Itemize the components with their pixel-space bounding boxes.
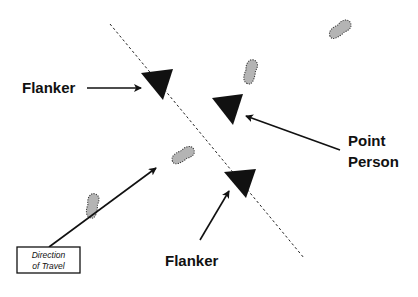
direction-arrow xyxy=(49,168,156,247)
footprint-icon xyxy=(326,18,353,40)
point-person-arrow xyxy=(246,116,340,150)
flanker-top-label: Flanker xyxy=(22,79,76,96)
of-travel-label: of Travel xyxy=(32,261,66,271)
point-label: Point xyxy=(348,132,386,149)
person-label: Person xyxy=(348,153,399,170)
point-person-marker-icon xyxy=(212,94,243,125)
flanker-top-marker-icon xyxy=(141,69,173,100)
flanker-bottom-label: Flanker xyxy=(165,252,219,269)
dashed-path-line xyxy=(110,24,304,258)
flanker-bottom-arrow xyxy=(200,191,229,240)
footprint-icon xyxy=(169,145,196,165)
diagram-canvas: Flanker Point Person Flanker Direction o… xyxy=(0,0,418,297)
footprint-icon xyxy=(239,58,261,85)
formation-diagram: Flanker Point Person Flanker Direction o… xyxy=(0,0,418,297)
direction-label: Direction xyxy=(32,250,66,260)
